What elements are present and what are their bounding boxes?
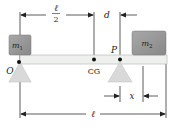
pivot-o-label: O [6,66,14,76]
half-length-numerator: ℓ [54,3,58,13]
length-label: ℓ [91,109,95,119]
point-p-dot [118,58,122,62]
mass-1-block: m1 [9,35,31,55]
distance-x-label: x [130,91,135,101]
distance-d-label: d [104,10,110,20]
mass-2-subscript: 2 [149,43,153,49]
mass-2-block: m2 [132,31,166,55]
mass-1-subscript: 1 [20,45,24,51]
cg-dot [92,58,96,62]
cg-label: CG [88,67,101,76]
pivot-p-label: P [110,45,118,55]
lever-diagram: ℓ 2 d m1 m2 O CG P x ℓ [0,0,169,127]
point-o-dot [17,60,21,64]
half-length-denominator: 2 [53,15,58,24]
support-p-triangle [108,62,132,82]
